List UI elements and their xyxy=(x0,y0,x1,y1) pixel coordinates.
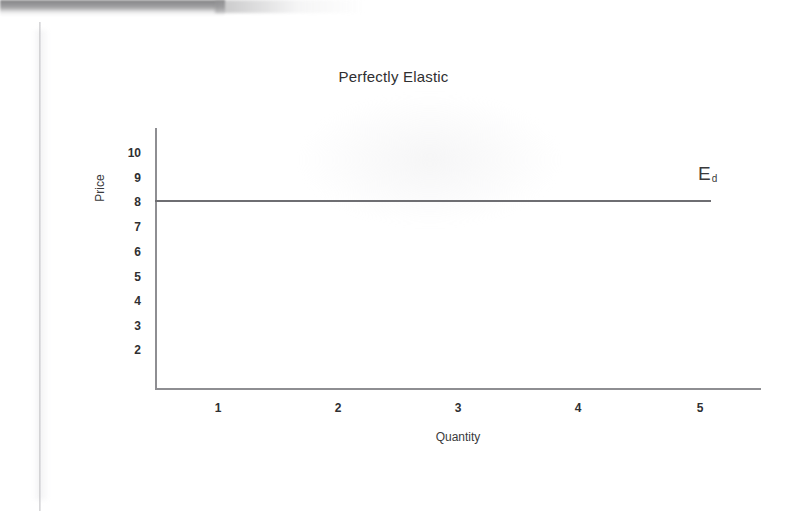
y-tick-label: 4 xyxy=(107,295,141,307)
scanned-figure-page: Perfectly Elastic Ed Price Quantity 10 9… xyxy=(0,0,787,511)
y-tick-label: 6 xyxy=(107,246,141,258)
demand-curve-line xyxy=(155,200,711,202)
y-tick-label: 5 xyxy=(107,271,141,283)
y-tick-label: 9 xyxy=(107,172,141,184)
y-tick-label: 10 xyxy=(107,147,141,159)
x-tick-label: 4 xyxy=(558,402,598,414)
y-tick-label: 2 xyxy=(107,344,141,356)
page-edge-smudge xyxy=(33,30,49,500)
x-tick-label: 3 xyxy=(438,402,478,414)
x-axis-line xyxy=(155,388,761,390)
y-tick-label: 7 xyxy=(107,221,141,233)
y-tick-label: 3 xyxy=(107,320,141,332)
scan-shadow-band xyxy=(0,0,225,16)
scan-haze xyxy=(300,95,560,225)
y-tick-label: 8 xyxy=(107,196,141,208)
x-axis-title: Quantity xyxy=(408,430,508,444)
page-edge-line xyxy=(39,22,41,511)
x-tick-label: 5 xyxy=(680,402,720,414)
chart-title: Perfectly Elastic xyxy=(0,68,787,85)
y-axis-line xyxy=(155,128,157,390)
demand-curve-label-base: E xyxy=(698,163,711,184)
y-axis-title: Price xyxy=(93,162,107,214)
x-tick-label: 2 xyxy=(318,402,358,414)
demand-curve-label: Ed xyxy=(698,164,716,183)
x-tick-label: 1 xyxy=(198,402,238,414)
scan-shadow-band-fade xyxy=(215,0,365,13)
demand-curve-label-subscript: d xyxy=(712,173,718,184)
